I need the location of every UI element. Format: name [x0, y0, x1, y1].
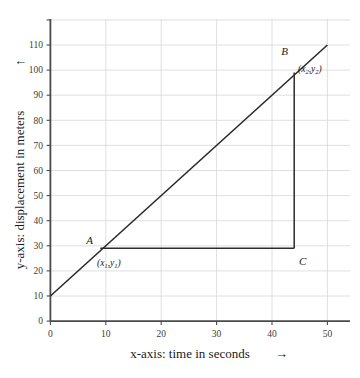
- y-tick-label: 70: [34, 141, 44, 151]
- y-tick-label: 20: [34, 266, 44, 276]
- x-tick-label: 50: [323, 329, 333, 339]
- x-axis-title: x-axis: time in seconds: [130, 346, 250, 361]
- point-a-label: A: [85, 234, 93, 246]
- y-tick-label: 30: [34, 241, 44, 251]
- x-tick-label: 0: [48, 329, 53, 339]
- y-tick-label: 80: [34, 116, 44, 126]
- y-tick-label: 100: [29, 65, 44, 75]
- y-tick-label: 0: [38, 316, 43, 326]
- x-tick-label: 40: [267, 329, 277, 339]
- x-tick-label: 20: [156, 329, 166, 339]
- chart-svg: 0 10 20 30 40 50 60 70 80 90 100 110 0 1…: [0, 0, 360, 378]
- point-a-coords: (x1,y1): [97, 258, 121, 269]
- y-tick-label: 10: [34, 291, 44, 301]
- y-tick-label: 50: [34, 191, 44, 201]
- x-tick-label: 10: [101, 329, 111, 339]
- y-tick-label: 40: [34, 216, 44, 226]
- x-tick-label: 30: [212, 329, 222, 339]
- y-tick-label: 60: [34, 166, 44, 176]
- y-tick-label: 90: [34, 90, 44, 100]
- y-axis-title: y-axis: displacement in meters: [12, 111, 27, 269]
- point-b-label: B: [281, 45, 288, 57]
- point-b-coords: (x2,y2): [298, 64, 322, 75]
- x-axis-arrow-icon: →: [275, 346, 288, 361]
- y-tick-label: 110: [29, 40, 43, 50]
- chart-figure: 0 10 20 30 40 50 60 70 80 90 100 110 0 1…: [0, 0, 360, 378]
- y-axis-arrow-icon: ↑: [12, 60, 27, 67]
- point-c-label: C: [299, 255, 307, 267]
